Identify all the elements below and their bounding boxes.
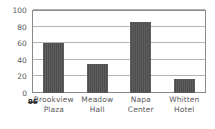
- y-tick-label-60: 60: [17, 39, 27, 48]
- y-tick-label-20: 20: [17, 72, 27, 81]
- y-axis-tick-labels: 020406080100: [0, 10, 30, 93]
- x-category-label-1-line-0: Meadow: [81, 95, 113, 104]
- x-axis-category-labels: BrookviewPlazaMeadowHallNapaCenterWhitte…: [32, 95, 206, 129]
- x-category-label-3-line-1: Hotel: [156, 105, 212, 115]
- origin-annotation: 96: [28, 98, 37, 106]
- bar-0: [43, 43, 64, 93]
- y-tick-label-100: 100: [12, 6, 27, 15]
- x-category-label-0-line-0: Brookview: [34, 95, 74, 104]
- y-tick-label-40: 40: [17, 55, 27, 64]
- bar-2: [130, 22, 151, 93]
- x-category-label-3-line-0: Whitten: [169, 95, 199, 104]
- bar-chart: 020406080100 BrookviewPlazaMeadowHallNap…: [0, 0, 215, 129]
- x-category-label-3: WhittenHotel: [156, 95, 212, 114]
- bars-layer: [32, 10, 206, 93]
- bar-3: [174, 79, 195, 93]
- x-category-label-2-line-0: Napa: [131, 95, 151, 104]
- bar-1: [87, 64, 108, 93]
- y-tick-label-80: 80: [17, 22, 27, 31]
